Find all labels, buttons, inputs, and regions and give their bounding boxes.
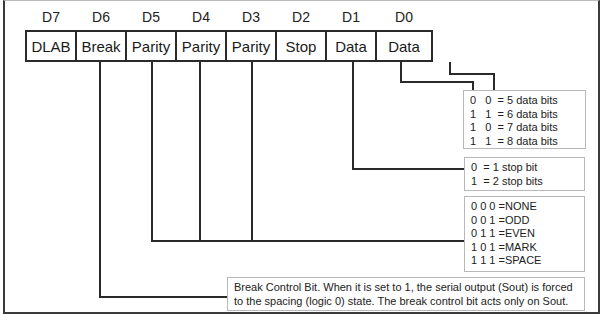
data-bits-row: 1 1 = 8 data bits xyxy=(470,135,579,149)
wire-d6-horizontal xyxy=(99,296,229,298)
data-bits-table: 0 0 = 5 data bits 1 1 = 6 data bits 1 0 … xyxy=(463,90,586,149)
register-cell-break: Break xyxy=(75,30,127,62)
parity-table: 0 0 0 =NONE 0 0 1 =ODD 0 1 1 =EVEN 1 0 1… xyxy=(464,196,585,272)
wire-d2-vertical xyxy=(352,62,354,169)
wire-d4-vertical xyxy=(199,62,201,242)
wire-d3-vertical xyxy=(251,62,253,242)
bit-label-d5: D5 xyxy=(126,9,176,25)
stop-bits-row: 1 = 2 stop bits xyxy=(471,175,578,189)
wire-d2-horizontal xyxy=(352,168,470,170)
bit-label-d1: D1 xyxy=(326,9,376,25)
bit-label-d4: D4 xyxy=(176,9,226,25)
wire-d0-horizontal xyxy=(449,73,494,75)
wire-d1-horizontal xyxy=(400,81,474,83)
bit-label-d0: D0 xyxy=(379,9,429,25)
stop-bits-row: 0 = 1 stop bit xyxy=(471,161,578,175)
register-cell-parity-d5: Parity xyxy=(125,30,177,62)
wire-d1-vertical xyxy=(400,62,402,82)
wire-d5-vertical xyxy=(151,62,153,242)
bit-label-d3: D3 xyxy=(226,9,276,25)
register-cell-parity-d3: Parity xyxy=(225,30,277,62)
stop-bits-table: 0 = 1 stop bit 1 = 2 stop bits xyxy=(464,157,585,191)
wire-d1-drop xyxy=(472,81,474,90)
parity-row: 1 0 1 =MARK xyxy=(471,241,578,255)
register-cell-stop: Stop xyxy=(275,30,327,62)
parity-row: 0 0 0 =NONE xyxy=(471,200,578,214)
parity-row: 0 1 1 =EVEN xyxy=(471,227,578,241)
bit-label-d2: D2 xyxy=(276,9,326,25)
break-control-note: Break Control Bit. When it is set to 1, … xyxy=(227,277,585,311)
data-bits-row: 1 0 = 7 data bits xyxy=(470,121,579,135)
bit-label-d6: D6 xyxy=(76,9,126,25)
parity-row: 0 0 1 =ODD xyxy=(471,214,578,228)
data-bits-row: 1 1 = 6 data bits xyxy=(470,108,579,122)
parity-row: 1 1 1 =SPACE xyxy=(471,254,578,268)
wire-d0-drop xyxy=(493,73,495,90)
register-cell-data-d1: Data xyxy=(325,30,377,62)
data-bits-row: 0 0 = 5 data bits xyxy=(470,94,579,108)
register-cell-data-d0: Data xyxy=(375,30,433,62)
register-cell-parity-d4: Parity xyxy=(175,30,227,62)
break-note-line: Break Control Bit. When it is set to 1, … xyxy=(234,281,578,295)
break-note-line: to the spacing (logic 0) state. The brea… xyxy=(234,295,578,309)
register-cell-dlab: DLAB xyxy=(25,30,77,62)
wire-parity-horizontal xyxy=(151,240,470,242)
wire-d6-vertical xyxy=(99,62,101,298)
bit-label-d7: D7 xyxy=(26,9,76,25)
